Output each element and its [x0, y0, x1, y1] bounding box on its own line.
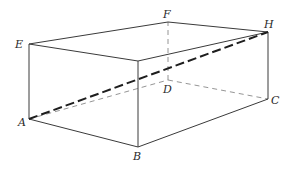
hidden-edge-DC [168, 80, 268, 99]
edge-AB [29, 119, 138, 147]
vertex-label-B: B [132, 150, 141, 163]
vertex-label-A: A [17, 116, 26, 129]
edge-EG [29, 44, 138, 61]
vertex-label-D: D [162, 83, 172, 96]
vertex-label-C: C [271, 94, 280, 107]
edge-BC [138, 99, 268, 147]
rectangular-prism-diagram: E F H D C A B [0, 0, 298, 170]
vertex-label-F: F [162, 8, 171, 21]
space-diagonal-AH [29, 32, 268, 119]
edge-FH [168, 22, 268, 32]
vertex-label-H: H [263, 18, 274, 31]
hidden-edge-AD [29, 80, 168, 119]
vertex-label-E: E [14, 38, 23, 51]
edge-EF [29, 22, 168, 44]
